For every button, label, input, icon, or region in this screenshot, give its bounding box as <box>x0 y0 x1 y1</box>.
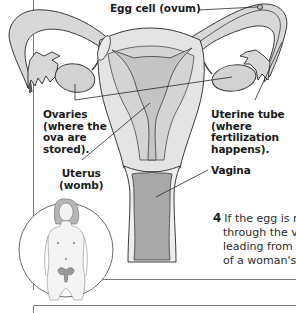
uterine-tube-label: Uterine tube (where fertilization happen… <box>211 109 285 155</box>
vagina-label: Vagina <box>211 165 251 177</box>
uterus-label-line-1: Uterus <box>59 168 103 180</box>
caption-line-3: leading from <box>213 240 296 254</box>
uterus-label-line-2: (womb) <box>59 180 103 192</box>
ovaries-label-line-1: Ovaries <box>43 109 107 121</box>
caption-line-2: through the v <box>213 226 296 240</box>
uterine-tube-label-line-1: Uterine tube <box>211 109 285 121</box>
right-ovarian-ligament <box>204 62 212 74</box>
egg-cell-label: Egg cell (ovum) <box>110 3 201 15</box>
uterine-tube-label-line-4: happens). <box>211 144 285 156</box>
left-fimbriae <box>28 52 60 88</box>
caption-line-1: 4If the egg is r <box>213 211 296 226</box>
uterus-label: Uterus (womb) <box>59 168 103 191</box>
diagram-stage: Egg cell (ovum) Ovaries (where the ova a… <box>0 0 296 313</box>
step-caption: 4If the egg is r through the v leading f… <box>213 211 296 268</box>
ovaries-label: Ovaries (where the ova are stored). <box>43 109 107 155</box>
right-ovary <box>210 62 257 94</box>
uterine-tube-label-line-3: fertilization <box>211 132 285 144</box>
vaginal-canal <box>132 172 172 260</box>
step-number: 4 <box>213 211 221 225</box>
caption-line-4: of a woman's <box>213 254 296 268</box>
egg-cell <box>257 5 262 10</box>
ovaries-label-line-4: stored). <box>43 144 107 156</box>
ovaries-label-line-3: ova are <box>43 132 107 144</box>
figure-torso <box>47 221 85 300</box>
